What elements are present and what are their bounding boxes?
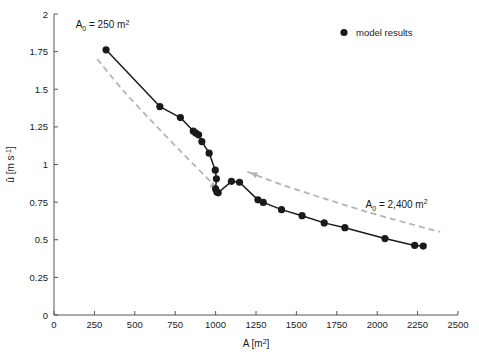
x-axis-tick-label: 0 xyxy=(51,319,56,330)
x-axis-tick-label: 1500 xyxy=(286,319,307,330)
y-axis-tick-label: 1.75 xyxy=(30,46,49,57)
data-point-marker xyxy=(278,206,285,213)
data-point-marker xyxy=(156,103,163,110)
data-point-marker xyxy=(206,150,213,157)
x-axis-tick-label: 1750 xyxy=(326,319,347,330)
data-point-marker xyxy=(228,178,235,185)
data-point-marker xyxy=(420,242,427,249)
x-axis-tick-label: 250 xyxy=(86,319,102,330)
annotation-value: = 2,400 m xyxy=(376,199,424,210)
x-axis-tick-label: 500 xyxy=(127,319,143,330)
annotation-value: = 250 m xyxy=(86,19,125,30)
data-point-marker xyxy=(213,175,220,182)
data-point-marker xyxy=(212,167,219,174)
data-point-marker xyxy=(198,138,205,145)
hysteresis-line-chart: 0250500750100012501500175020002250250000… xyxy=(0,0,479,363)
annotation-exponent: 2 xyxy=(424,198,428,205)
x-axis-title-symbol: A [m xyxy=(243,338,263,349)
x-axis-title-close: ] xyxy=(267,338,270,349)
y-axis-tick-label: 1.5 xyxy=(35,84,48,95)
x-axis-tick-label: 1250 xyxy=(245,319,266,330)
y-axis-tick-label: 0.5 xyxy=(35,234,48,245)
data-point-marker xyxy=(381,235,388,242)
x-axis-tick-label: 2500 xyxy=(447,319,468,330)
annotation-exponent: 2 xyxy=(125,19,129,26)
data-point-marker xyxy=(341,224,348,231)
data-point-marker xyxy=(236,179,243,186)
legend-marker-model-results xyxy=(340,29,347,36)
y-axis-title-symbol: û [m s xyxy=(5,155,16,182)
legend-label-model-results: model results xyxy=(356,27,413,38)
y-axis-tick-label: 2 xyxy=(43,9,48,20)
data-point-marker xyxy=(102,46,109,53)
data-point-marker xyxy=(298,212,305,219)
x-axis-tick-label: 2000 xyxy=(367,319,388,330)
data-point-marker xyxy=(195,131,202,138)
y-axis-title-close: ] xyxy=(5,146,16,149)
x-axis-tick-label: 2250 xyxy=(407,319,428,330)
y-axis-tick-label: 0.75 xyxy=(30,197,49,208)
y-axis-tick-label: 1 xyxy=(43,159,48,170)
y-axis-tick-label: 0 xyxy=(43,310,48,321)
y-axis-tick-label: 0.25 xyxy=(30,272,49,283)
data-point-marker xyxy=(321,219,328,226)
data-point-marker xyxy=(177,114,184,121)
data-point-marker xyxy=(260,199,267,206)
data-point-marker xyxy=(215,189,222,196)
y-axis-tick-label: 1.25 xyxy=(30,121,49,132)
x-axis-tick-label: 1000 xyxy=(205,319,226,330)
x-axis-tick-label: 750 xyxy=(167,319,183,330)
chart-figure: 0250500750100012501500175020002250250000… xyxy=(0,0,479,363)
data-point-marker xyxy=(411,242,418,249)
